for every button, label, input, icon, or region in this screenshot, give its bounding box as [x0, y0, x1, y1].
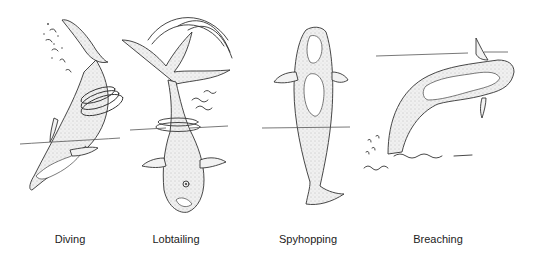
caption-spyhopping: Spyhopping: [258, 233, 358, 245]
caption-breaching: Breaching: [388, 233, 488, 245]
diving-illustration: [0, 0, 130, 220]
lobtailing-illustration: [118, 0, 258, 220]
caption-lobtailing: Lobtailing: [126, 233, 226, 245]
spyhopping-illustration: [262, 0, 362, 220]
caption-diving: Diving: [20, 233, 120, 245]
breaching-illustration: [358, 0, 536, 220]
